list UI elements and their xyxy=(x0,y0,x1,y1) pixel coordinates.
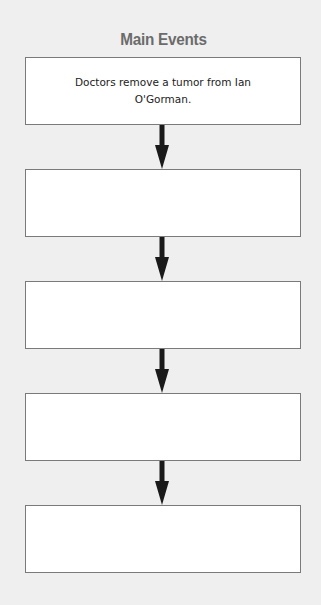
event-box-3[interactable] xyxy=(25,281,301,349)
event-box-5[interactable] xyxy=(25,505,301,573)
down-arrow-icon xyxy=(154,237,170,281)
down-arrow-icon xyxy=(154,461,170,505)
diagram-title: Main Events xyxy=(16,30,310,50)
event-text-1: Doctors remove a tumor from Ian O'Gorman… xyxy=(26,74,300,108)
event-box-2[interactable] xyxy=(25,169,301,237)
down-arrow-icon xyxy=(154,349,170,393)
event-box-4[interactable] xyxy=(25,393,301,461)
event-box-1: Doctors remove a tumor from Ian O'Gorman… xyxy=(25,57,301,125)
down-arrow-icon xyxy=(154,125,170,169)
